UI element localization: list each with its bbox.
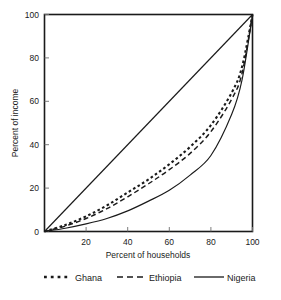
y-tick-label-100: 100 [25, 10, 39, 20]
x-tick-label-20: 20 [81, 237, 91, 247]
chart-legend: Ghana Ethiopia Nigeria [44, 273, 256, 283]
lorenz-curve-figure: 0 20 40 60 80 100 20 40 60 80 100 Percen… [0, 0, 281, 300]
x-tick-label-80: 80 [206, 237, 216, 247]
chart-canvas: 0 20 40 60 80 100 20 40 60 80 100 Percen… [0, 0, 281, 300]
x-tick-label-40: 40 [123, 237, 133, 247]
y-tick-label-0: 0 [34, 227, 39, 237]
equality-line [45, 15, 253, 232]
x-tick-label-60: 60 [165, 237, 175, 247]
y-tick-label-80: 80 [30, 53, 40, 63]
legend-item-nigeria[interactable]: Nigeria [194, 273, 256, 283]
curve-group [45, 15, 253, 232]
legend-label-ethiopia: Ethiopia [149, 273, 182, 283]
legend-item-ghana[interactable]: Ghana [44, 273, 102, 283]
y-tick-label-60: 60 [30, 96, 40, 106]
y-tick-label-40: 40 [30, 140, 40, 150]
y-axis-title: Percent of income [10, 88, 20, 157]
y-tick-label-20: 20 [30, 183, 40, 193]
legend-item-ethiopia[interactable]: Ethiopia [117, 273, 182, 283]
legend-label-ghana: Ghana [75, 273, 102, 283]
x-tick-label-100: 100 [245, 237, 259, 247]
x-axis-title: Percent of households [106, 250, 191, 260]
legend-label-nigeria: Nigeria [227, 273, 256, 283]
